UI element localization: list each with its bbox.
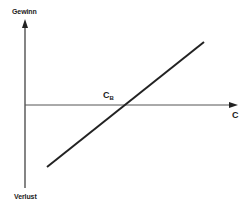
break-even-diagram: Gewinn Verlust C CB [0,0,249,210]
diagram-canvas [0,0,249,210]
x-axis-label: C [232,110,239,120]
verlust-label: Verlust [14,193,37,200]
break-even-label-sub: B [110,95,114,101]
gewinn-label: Gewinn [12,8,37,15]
break-even-label: CB [103,90,114,101]
y-axis-arrow-icon [22,19,28,28]
x-axis-arrow-icon [229,102,238,108]
